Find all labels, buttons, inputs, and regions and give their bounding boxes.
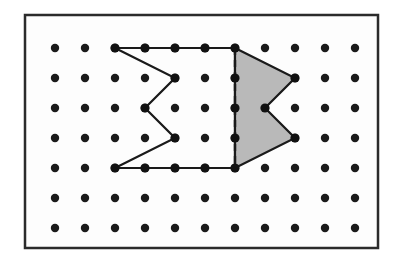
polygon-vertex-dot[interactable]	[170, 73, 179, 82]
peg-dot[interactable]	[351, 224, 359, 232]
peg-dot[interactable]	[111, 194, 119, 202]
peg-dot[interactable]	[321, 74, 329, 82]
peg-dot[interactable]	[141, 134, 149, 142]
polygon-vertex-dot[interactable]	[230, 163, 239, 172]
peg-dot[interactable]	[171, 104, 179, 112]
peg-dot[interactable]	[201, 74, 209, 82]
peg-dot[interactable]	[321, 134, 329, 142]
figure-root	[0, 0, 401, 273]
peg-dot[interactable]	[51, 224, 59, 232]
peg-dot[interactable]	[141, 194, 149, 202]
peg-dot[interactable]	[231, 224, 239, 232]
polygon-vertex-dot[interactable]	[260, 103, 269, 112]
peg-dot[interactable]	[261, 194, 269, 202]
peg-dot[interactable]	[111, 104, 119, 112]
peg-dot[interactable]	[141, 224, 149, 232]
peg-dot[interactable]	[141, 74, 149, 82]
peg-dot[interactable]	[261, 164, 269, 172]
peg-dot[interactable]	[81, 194, 89, 202]
peg-dot[interactable]	[291, 194, 299, 202]
polygon-vertex-dot[interactable]	[230, 43, 239, 52]
peg-dot[interactable]	[111, 134, 119, 142]
peg-dot[interactable]	[51, 194, 59, 202]
peg-dot[interactable]	[81, 224, 89, 232]
peg-dot[interactable]	[51, 74, 59, 82]
polygon-vertex-dot[interactable]	[230, 133, 239, 142]
geoboard-svg	[0, 0, 401, 273]
peg-dot[interactable]	[201, 134, 209, 142]
polygon-vertex-dot[interactable]	[290, 73, 299, 82]
peg-dot[interactable]	[171, 224, 179, 232]
peg-dot[interactable]	[201, 104, 209, 112]
peg-dot[interactable]	[321, 44, 329, 52]
peg-dot[interactable]	[261, 44, 269, 52]
polygon-vertex-dot[interactable]	[200, 43, 209, 52]
peg-dot[interactable]	[111, 224, 119, 232]
peg-dot[interactable]	[351, 194, 359, 202]
peg-dot[interactable]	[81, 74, 89, 82]
peg-dot[interactable]	[81, 44, 89, 52]
peg-dot[interactable]	[51, 104, 59, 112]
polygon-vertex-dot[interactable]	[170, 163, 179, 172]
peg-dot[interactable]	[291, 44, 299, 52]
peg-dot[interactable]	[201, 194, 209, 202]
peg-dot[interactable]	[81, 104, 89, 112]
polygon-vertex-dot[interactable]	[140, 163, 149, 172]
peg-dot[interactable]	[81, 164, 89, 172]
polygon-vertex-dot[interactable]	[200, 163, 209, 172]
peg-dot[interactable]	[51, 44, 59, 52]
peg-dot[interactable]	[261, 224, 269, 232]
peg-dot[interactable]	[111, 74, 119, 82]
peg-dot[interactable]	[201, 224, 209, 232]
peg-dot[interactable]	[351, 74, 359, 82]
peg-dot[interactable]	[231, 194, 239, 202]
polygon-vertex-dot[interactable]	[290, 133, 299, 142]
peg-dot[interactable]	[351, 164, 359, 172]
peg-dot[interactable]	[351, 134, 359, 142]
peg-dot[interactable]	[51, 134, 59, 142]
peg-dot[interactable]	[321, 104, 329, 112]
polygon-vertex-dot[interactable]	[140, 103, 149, 112]
peg-dot[interactable]	[81, 134, 89, 142]
peg-dot[interactable]	[291, 164, 299, 172]
polygon-vertex-dot[interactable]	[140, 43, 149, 52]
polygon-vertex-dot[interactable]	[230, 103, 239, 112]
polygon-vertex-dot[interactable]	[110, 43, 119, 52]
peg-dot[interactable]	[51, 164, 59, 172]
peg-dot[interactable]	[291, 104, 299, 112]
peg-dot[interactable]	[351, 104, 359, 112]
peg-dot[interactable]	[171, 194, 179, 202]
peg-dot[interactable]	[351, 44, 359, 52]
peg-dot[interactable]	[321, 194, 329, 202]
peg-dot[interactable]	[321, 164, 329, 172]
peg-dot[interactable]	[321, 224, 329, 232]
peg-dot[interactable]	[291, 224, 299, 232]
polygon-vertex-dot[interactable]	[230, 73, 239, 82]
polygon-vertex-dot[interactable]	[170, 43, 179, 52]
polygon-vertex-dot[interactable]	[170, 133, 179, 142]
polygon-vertex-dot[interactable]	[110, 163, 119, 172]
